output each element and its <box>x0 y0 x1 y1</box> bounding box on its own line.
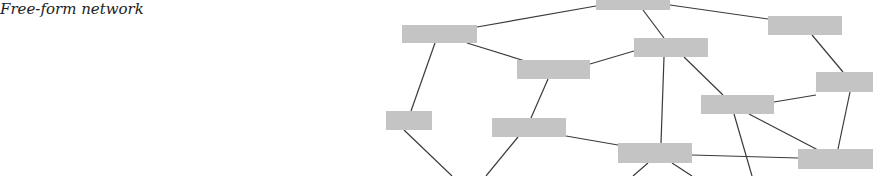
network-edge <box>467 43 525 61</box>
network-edge <box>486 137 518 176</box>
network-nodes <box>386 0 873 169</box>
network-node-n7 <box>701 95 774 114</box>
network-node-n2 <box>402 25 477 43</box>
network-edge <box>684 57 723 95</box>
network-edge <box>531 79 548 118</box>
network-edge <box>670 5 768 19</box>
network-node-n8 <box>386 111 432 130</box>
network-node-n6 <box>816 72 873 92</box>
network-edge <box>590 51 634 64</box>
network-node-n5 <box>768 16 842 35</box>
network-edge <box>404 130 452 176</box>
network-node-n10 <box>618 143 692 163</box>
network-edge <box>643 10 664 38</box>
network-edge <box>411 43 435 111</box>
network-edge <box>633 163 648 176</box>
network-edge <box>692 155 798 158</box>
network-diagram <box>0 0 873 176</box>
network-node-n4 <box>634 38 708 57</box>
network-node-n3 <box>517 60 590 79</box>
network-edge <box>734 114 752 176</box>
network-edge <box>812 35 843 72</box>
network-node-n11 <box>798 149 873 169</box>
network-edge <box>566 136 618 145</box>
network-edge <box>749 114 818 150</box>
network-edge <box>774 95 816 102</box>
network-edge <box>477 6 596 27</box>
network-edge <box>838 92 850 149</box>
network-edge <box>672 163 692 176</box>
network-node-n9 <box>492 118 566 137</box>
network-edge <box>661 57 664 143</box>
network-node-n1 <box>596 0 670 10</box>
